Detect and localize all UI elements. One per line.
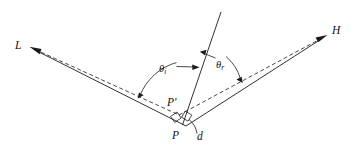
label-L: L: [15, 40, 21, 52]
diagram-root: L H θi θr P' P d: [0, 0, 357, 149]
label-P-prime: P': [167, 97, 176, 109]
label-P: P: [172, 130, 179, 142]
H-vector-arrow: [186, 35, 328, 126]
theta-i-subscript: i: [164, 67, 166, 76]
label-theta-i: θi: [159, 64, 166, 75]
label-H: H: [332, 25, 340, 37]
theta-i-arc: [138, 63, 200, 99]
theta-r-subscript: r: [221, 63, 224, 72]
label-d: d: [197, 131, 203, 143]
reflection-diagram-svg: [0, 0, 357, 149]
L-dashed-parallel: [33, 49, 177, 115]
H-dashed-parallel: [179, 38, 323, 116]
L-vector-arrow: [30, 47, 187, 126]
label-theta-r: θr: [216, 60, 224, 71]
